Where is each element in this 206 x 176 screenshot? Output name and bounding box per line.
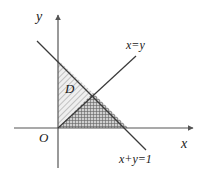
line-x-equals-y-label: x=y: [126, 39, 145, 51]
line-x-plus-y-equals-1-label: x+y=1: [119, 153, 152, 165]
line-x-plus-y-equals-1: [37, 41, 146, 150]
origin-label: O: [39, 131, 48, 144]
x-axis-label: x: [181, 137, 187, 151]
region-d-label: D: [65, 82, 74, 95]
coordinate-figure: [0, 0, 206, 176]
y-axis-label: y: [36, 10, 42, 24]
figure-container: y x O D x=y x+y=1: [0, 0, 206, 176]
